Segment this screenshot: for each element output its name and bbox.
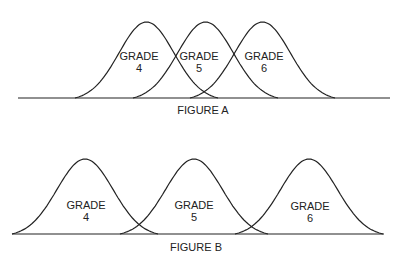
figure-b-grade-6-label: GRADE 6 <box>290 200 329 224</box>
figure-b-grade-5-label: GRADE 5 <box>174 199 213 223</box>
figure-b-grade-4-label: GRADE 4 <box>66 199 105 223</box>
grade-word: GRADE <box>244 50 283 62</box>
grade-word: GRADE <box>174 199 213 211</box>
figure-a-grade-4-label: GRADE 4 <box>119 50 158 74</box>
grade-word: GRADE <box>119 50 158 62</box>
grade-number: 4 <box>66 211 105 223</box>
grade-number: 5 <box>179 62 218 74</box>
grade-number: 6 <box>290 212 329 224</box>
grade-number: 6 <box>244 62 283 74</box>
figure-a-caption: FIGURE A <box>177 104 228 116</box>
figure-a-grade-5-label: GRADE 5 <box>179 50 218 74</box>
grade-word: GRADE <box>290 200 329 212</box>
distribution-diagram <box>0 0 402 267</box>
grade-number: 4 <box>119 62 158 74</box>
grade-word: GRADE <box>179 50 218 62</box>
figure-a-grade-6-label: GRADE 6 <box>244 50 283 74</box>
figure-b-caption: FIGURE B <box>170 241 222 253</box>
grade-number: 5 <box>174 211 213 223</box>
grade-word: GRADE <box>66 199 105 211</box>
